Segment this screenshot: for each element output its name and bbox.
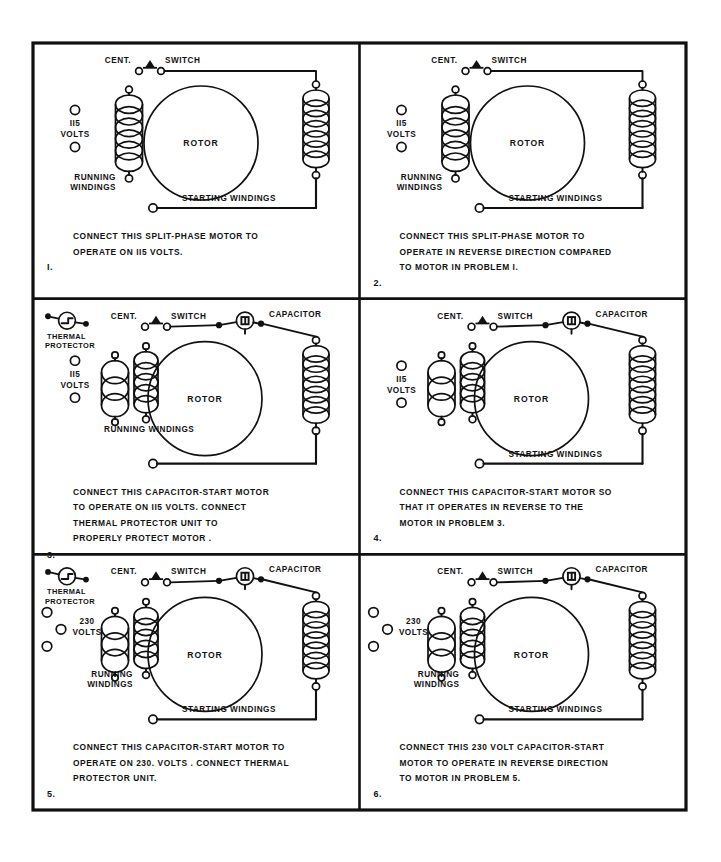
panel-number: I. (47, 262, 53, 272)
running-windings-label-line1: RUNNING (74, 173, 116, 182)
running-windings-label-line2: WINDINGS (70, 183, 116, 192)
supply-terminal-3 (42, 642, 52, 652)
switch-terminal-left (136, 68, 143, 75)
running-winding-coil-b (461, 607, 485, 668)
bottom-bus-terminal (475, 715, 483, 723)
panel-caption-line: CONNECT THIS SPLIT-PHASE MOTOR TO (73, 231, 258, 241)
switch-terminal-left (468, 579, 475, 586)
supply-terminal-1 (369, 608, 379, 618)
bottom-bus-terminal (475, 204, 483, 212)
panel-caption-line: PROPERLY PROTECT MOTOR . (73, 533, 212, 543)
coil-turn (303, 151, 329, 167)
capacitor-label: CAPACITOR (269, 310, 321, 319)
capacitor-lead-right (254, 578, 259, 579)
supply-volts-label: VOLTS (399, 628, 428, 637)
panel-caption-line: CONNECT THIS CAPACITOR-START MOTOR TO (73, 742, 285, 752)
coil-turn (134, 651, 158, 668)
starting-winding-coil (303, 346, 329, 424)
coil-turn (630, 407, 656, 423)
coil-turn (630, 663, 656, 679)
cent-label: CENT. (431, 56, 457, 65)
panel-caption-line: OPERATE ON 230. VOLTS . CONNECT THERMAL (73, 758, 289, 768)
protector-label: PROTECTOR (45, 341, 95, 350)
panel-caption-line: CONNECT THIS SPLIT-PHASE MOTOR TO (400, 231, 585, 241)
running-windings-label-line1: RUNNING (401, 173, 443, 182)
rotor-label: ROTOR (510, 138, 545, 148)
supply-terminal-bottom (70, 142, 79, 151)
thermal-protector-body (59, 312, 76, 329)
running-windings-label: RUNNING WINDINGS (104, 425, 194, 434)
capacitor-wire-node-left (216, 578, 222, 584)
starting-windings-label: STARTING WINDINGS (509, 705, 603, 714)
supply-volts-label: VOLTS (60, 381, 89, 390)
coil-turn (134, 396, 158, 413)
thermal-terminal-right (83, 321, 89, 327)
panel-number: 3. (47, 550, 55, 560)
cent-label: CENT. (111, 567, 137, 576)
thermal-terminal-left (45, 569, 51, 575)
running-winding-coil-a (428, 616, 455, 672)
panel-number: 2. (374, 278, 382, 288)
capacitor-symbol (563, 312, 580, 329)
supply-terminal-bottom (397, 398, 406, 407)
capacitor-label: CAPACITOR (596, 310, 648, 319)
panel-number: 5. (47, 789, 55, 799)
starting-windings-label: STARTING WINDINGS (182, 705, 276, 714)
starting-winding-coil (630, 346, 656, 424)
motor-wiring-worksheet: ROTORCENT.SWITCHII5VOLTSRUNNINGWINDINGSS… (0, 0, 721, 862)
coil-turn (102, 649, 129, 672)
switch-label: SWITCH (498, 312, 533, 321)
capacitor-symbol (236, 312, 253, 329)
panel-caption-line: TO MOTOR IN PROBLEM I. (400, 262, 519, 272)
starting-winding-coil (630, 601, 656, 679)
rotor-label: ROTOR (187, 394, 222, 404)
capacitor-label: CAPACITOR (269, 565, 321, 574)
coil-turn (102, 394, 129, 417)
panel-caption-line: CONNECT THIS CAPACITOR-START MOTOR (73, 487, 269, 497)
starting-winding-coil (630, 90, 656, 168)
panel-caption-line: OPERATE IN REVERSE DIRECTION COMPARED (400, 247, 612, 257)
supply-terminal-bottom (397, 142, 406, 151)
running-windings-label-line1: RUNNING (418, 670, 460, 679)
running-windings-label-line2: WINDINGS (414, 680, 460, 689)
coil-turn (303, 407, 329, 423)
coil-turn (116, 153, 143, 171)
starting-winding-coil (303, 601, 329, 679)
supply-voltage-label: 230 (79, 617, 94, 626)
running-winding-coil-b (134, 607, 158, 668)
supply-volts-label: VOLTS (72, 628, 101, 637)
starting-windings-label: STARTING WINDINGS (509, 194, 603, 203)
panel-caption-line: MOTOR IN PROBLEM 3. (400, 518, 506, 528)
capacitor-lead-right (254, 322, 259, 323)
capacitor-wire-node-left (542, 578, 548, 584)
capacitor-label: CAPACITOR (596, 565, 648, 574)
coil-turn (630, 151, 656, 167)
panel-caption-line: THAT IT OPERATES IN REVERSE TO THE (400, 502, 584, 512)
running-windings-label-line2: WINDINGS (397, 183, 443, 192)
capacitor-symbol (563, 568, 580, 585)
starting-windings-label: STARTING WINDINGS (509, 450, 603, 459)
rotor-label: ROTOR (183, 138, 218, 148)
supply-voltage-label: II5 (70, 370, 81, 379)
switch-label: SWITCH (171, 567, 206, 576)
running-windings-label-line2: WINDINGS (87, 680, 133, 689)
supply-terminal-2 (383, 625, 393, 635)
switch-terminal-right (164, 579, 171, 586)
running-winding-coil-a (102, 616, 129, 672)
supply-voltage-label: II5 (70, 119, 81, 128)
switch-label: SWITCH (171, 312, 206, 321)
thermal-terminal-right (83, 577, 89, 583)
panel-caption-line: PROTECTOR UNIT. (73, 773, 157, 783)
running-winding-coil-a (102, 361, 129, 417)
panel-number: 4. (374, 533, 382, 543)
panel-caption-line: THERMAL PROTECTOR UNIT TO (73, 518, 218, 528)
capacitor-symbol (236, 568, 253, 585)
panel-caption-line: TO MOTOR IN PROBLEM 5. (400, 773, 521, 783)
panel-number: 6. (374, 789, 382, 799)
supply-volts-label: VOLTS (387, 130, 416, 139)
coil-turn (428, 649, 455, 672)
supply-terminal-top (70, 105, 79, 114)
running-winding-coil-b (134, 352, 158, 413)
running-winding-coil-b (461, 352, 485, 413)
cent-label: CENT. (437, 312, 463, 321)
